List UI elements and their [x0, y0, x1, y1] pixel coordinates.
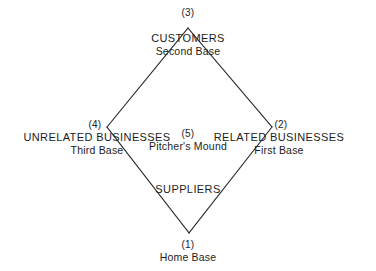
node-customers-number: (3)	[0, 6, 376, 19]
node-customers-base: Second Base	[0, 45, 376, 58]
suppliers-text: SUPPLIERS	[0, 183, 376, 196]
node-pitchers-mound: (5) Pitcher's Mound	[0, 127, 376, 153]
node-customers-label: CUSTOMERS	[0, 32, 376, 45]
node-home-base-label: Home Base	[0, 251, 376, 264]
node-mound-base: Pitcher's Mound	[0, 140, 376, 153]
suppliers-label: SUPPLIERS	[0, 183, 376, 196]
node-home-number: (1)	[0, 238, 376, 251]
node-customers: (3) CUSTOMERS Second Base	[0, 6, 376, 58]
diagram-canvas: (3) CUSTOMERS Second Base (4) UNRELATED …	[0, 0, 376, 271]
node-home-base: (1) Home Base	[0, 238, 376, 264]
node-mound-number: (5)	[0, 127, 376, 140]
